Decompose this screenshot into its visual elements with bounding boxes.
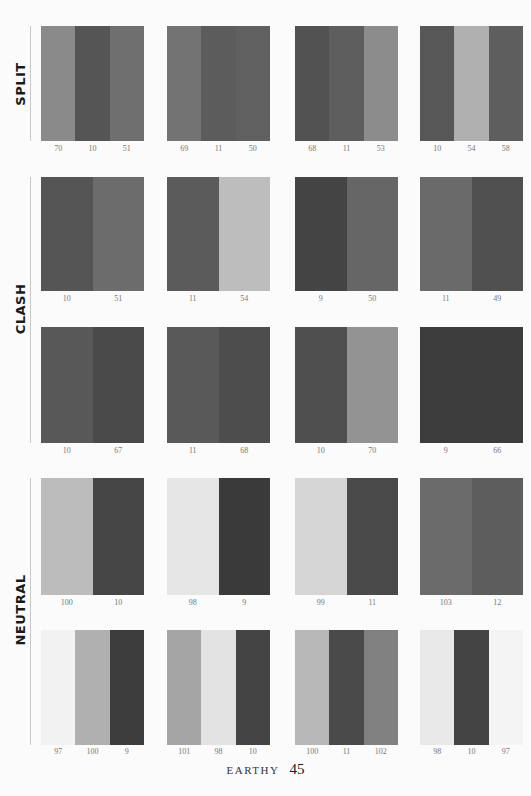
- swatch-number: 67: [93, 446, 145, 455]
- swatch-number: 11: [167, 446, 219, 455]
- swatch-number: 101: [167, 747, 201, 756]
- swatch-number: 68: [295, 144, 329, 153]
- color-swatch: [41, 26, 144, 141]
- swatch-number: 11: [329, 144, 363, 153]
- color-chip: [110, 26, 144, 141]
- swatch-number: 9: [219, 598, 271, 607]
- color-swatch: [420, 478, 523, 595]
- swatch-number: 11: [347, 598, 399, 607]
- clash-rule: [30, 177, 31, 443]
- color-chip: [364, 26, 398, 141]
- color-swatch: [41, 478, 144, 595]
- swatch-number: 51: [93, 294, 145, 303]
- swatch-number: 49: [472, 294, 524, 303]
- swatch-number: 11: [167, 294, 219, 303]
- color-chip: [167, 327, 219, 443]
- color-chip: [41, 630, 75, 745]
- swatch-number: 11: [329, 747, 363, 756]
- swatch-number-labels: 1168: [167, 446, 270, 455]
- color-chip: [201, 630, 235, 745]
- color-chip: [75, 630, 109, 745]
- color-chip: [236, 26, 270, 141]
- swatch-number-labels: 950: [295, 294, 398, 303]
- color-swatch: [295, 177, 398, 291]
- swatch-number: 10: [41, 446, 93, 455]
- swatch-number-labels: 971009: [41, 747, 144, 756]
- color-swatch: [167, 478, 270, 595]
- color-chip: [75, 26, 109, 141]
- color-chip: [420, 26, 454, 141]
- color-chip: [364, 630, 398, 745]
- color-chip: [347, 327, 399, 443]
- swatch-number: 9: [295, 294, 347, 303]
- color-chip: [219, 478, 271, 595]
- color-chip: [489, 630, 523, 745]
- color-chip: [93, 327, 145, 443]
- color-chip: [41, 478, 93, 595]
- color-swatch: [295, 478, 398, 595]
- swatch-number-labels: 1019810: [167, 747, 270, 756]
- swatch-number: 9: [420, 446, 472, 455]
- swatch-number: 50: [236, 144, 270, 153]
- swatch-number: 51: [110, 144, 144, 153]
- swatch-number: 53: [364, 144, 398, 153]
- color-swatch: [167, 26, 270, 141]
- color-swatch: [167, 177, 270, 291]
- swatch-number: 100: [295, 747, 329, 756]
- color-swatch: [167, 327, 270, 443]
- swatch-number: 102: [364, 747, 398, 756]
- color-chip: [454, 630, 488, 745]
- split-rule: [30, 26, 31, 141]
- color-swatch: [295, 26, 398, 141]
- color-chip: [167, 26, 201, 141]
- color-swatch: [420, 26, 523, 141]
- running-title: EARTHY: [227, 764, 280, 776]
- swatch-number: 66: [472, 446, 524, 455]
- color-chip: [489, 26, 523, 141]
- swatch-number: 50: [347, 294, 399, 303]
- color-chip: [295, 26, 329, 141]
- color-swatch: [420, 177, 523, 291]
- page-footer: EARTHY 45: [0, 760, 531, 778]
- swatch-number: 54: [219, 294, 271, 303]
- neutral-rule: [30, 478, 31, 745]
- color-chip: [219, 327, 271, 443]
- color-chip: [201, 26, 235, 141]
- swatch-number: 98: [201, 747, 235, 756]
- color-swatch: [41, 630, 144, 745]
- swatch-number-labels: 1149: [420, 294, 523, 303]
- swatch-number: 11: [420, 294, 472, 303]
- swatch-number: 97: [489, 747, 523, 756]
- swatch-number-labels: 10010: [41, 598, 144, 607]
- swatch-number-labels: 691150: [167, 144, 270, 153]
- color-chip: [295, 478, 347, 595]
- color-chip: [167, 177, 219, 291]
- swatch-number: 10: [75, 144, 109, 153]
- color-chip: [420, 327, 472, 443]
- color-chip: [167, 478, 219, 595]
- swatch-number: 54: [454, 144, 488, 153]
- color-chip: [472, 327, 524, 443]
- color-chip: [420, 630, 454, 745]
- swatch-number-labels: 701051: [41, 144, 144, 153]
- page-number: 45: [289, 761, 304, 777]
- color-chip: [347, 177, 399, 291]
- color-chip: [420, 177, 472, 291]
- swatch-number-labels: 105458: [420, 144, 523, 153]
- swatch-number-labels: 9911: [295, 598, 398, 607]
- swatch-number: 10: [93, 598, 145, 607]
- swatch-number: 10: [236, 747, 270, 756]
- color-swatch: [420, 630, 523, 745]
- swatch-number-labels: 10011102: [295, 747, 398, 756]
- color-chip: [295, 327, 347, 443]
- color-chip: [110, 630, 144, 745]
- color-swatch: [295, 630, 398, 745]
- swatch-number: 10: [420, 144, 454, 153]
- color-chip: [219, 177, 271, 291]
- color-chip: [454, 26, 488, 141]
- swatch-number: 98: [420, 747, 454, 756]
- swatch-number: 70: [347, 446, 399, 455]
- color-chip: [420, 478, 472, 595]
- swatch-number: 10: [295, 446, 347, 455]
- swatch-number: 97: [41, 747, 75, 756]
